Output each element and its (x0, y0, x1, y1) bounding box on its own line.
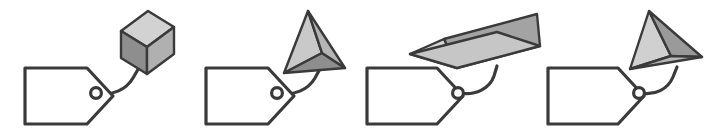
tag-3 (367, 68, 463, 124)
tag-3-eyelet (453, 88, 464, 99)
panel-triangular-prism: triangular prism (367, 14, 540, 124)
tag-4-eyelet (634, 88, 645, 99)
panel-cube: cube (25, 11, 174, 124)
panel-tetrahedron-b: tetrahedron (548, 11, 702, 124)
tag-2-eyelet (272, 88, 283, 99)
panel-tetrahedron-a: tetrahedron (206, 11, 345, 124)
tag-4 (548, 68, 644, 124)
tag-1-eyelet (91, 88, 102, 99)
figure-canvas: cube tetrahedron tri (0, 0, 724, 137)
figure-root: cube tetrahedron tri (0, 0, 724, 137)
cord-3 (459, 66, 497, 94)
cord-4 (640, 67, 677, 94)
